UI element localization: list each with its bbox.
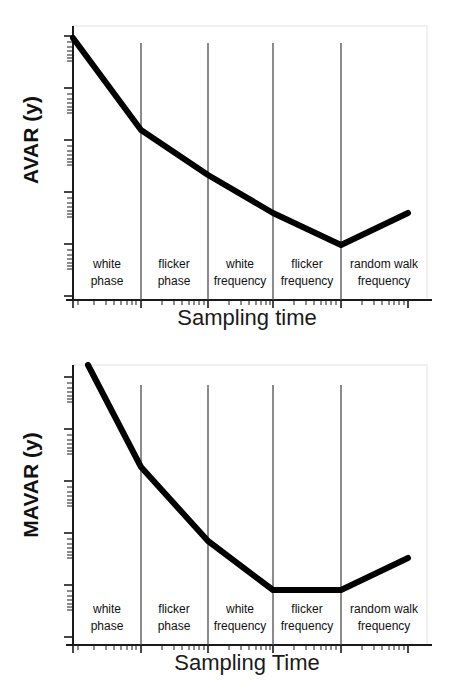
- chart-panel-mavar: MAVAR (y): [0, 345, 449, 690]
- region-label-3-line2: frequency: [281, 619, 334, 633]
- region-label-1-line2: phase: [158, 619, 191, 633]
- x-axis-label-mavar: Sampling Time: [62, 650, 432, 676]
- y-axis-ticks: [64, 377, 73, 637]
- region-label-4-line2: frequency: [358, 274, 411, 288]
- region-label-0-line1: white: [92, 257, 121, 271]
- region-label-2-line2: frequency: [214, 619, 267, 633]
- region-label-4-line1: random walk: [350, 602, 419, 616]
- region-label-0-line1: white: [92, 602, 121, 616]
- x-axis-label-avar: Sampling time: [62, 305, 432, 331]
- region-label-0-line2: phase: [91, 619, 124, 633]
- region-label-4-line2: frequency: [358, 619, 411, 633]
- region-label-2-line1: white: [225, 602, 254, 616]
- plot-area-mavar: white phase flicker phase white frequenc…: [0, 345, 449, 655]
- region-label-3-line2: frequency: [281, 274, 334, 288]
- region-label-3-line1: flicker: [291, 602, 322, 616]
- plot-area-avar: white phase flicker phase white frequenc…: [0, 0, 449, 310]
- mavar-svg: white phase flicker phase white frequenc…: [0, 345, 449, 655]
- chart-panel-avar: AVAR (y): [0, 0, 449, 345]
- region-label-3-line1: flicker: [291, 257, 322, 271]
- region-label-2-line2: frequency: [214, 274, 267, 288]
- region-label-1-line1: flicker: [158, 602, 189, 616]
- region-label-1-line1: flicker: [158, 257, 189, 271]
- region-label-1-line2: phase: [158, 274, 191, 288]
- y-axis-ticks: [64, 36, 73, 296]
- avar-svg: white phase flicker phase white frequenc…: [0, 0, 449, 310]
- region-label-0-line2: phase: [91, 274, 124, 288]
- region-label-4-line1: random walk: [350, 257, 419, 271]
- region-label-2-line1: white: [225, 257, 254, 271]
